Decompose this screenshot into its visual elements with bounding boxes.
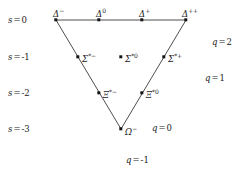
particle-superscript: 0 xyxy=(102,7,106,14)
charge-label-equals: = xyxy=(210,73,219,83)
particle-label: Ω− xyxy=(125,125,137,137)
particle-node xyxy=(119,127,122,130)
charge-label-value: 2 xyxy=(227,37,232,47)
strangeness-label-value: -1 xyxy=(22,52,30,62)
particle-node xyxy=(76,55,79,58)
particle-label: Σ*0 xyxy=(125,52,138,64)
triangle-edges xyxy=(0,0,250,175)
strangeness-label: s=-2 xyxy=(8,88,30,98)
particle-superscript: ++ xyxy=(188,7,198,14)
charge-label: q=-1 xyxy=(126,155,149,165)
strangeness-label-equals: = xyxy=(12,88,21,98)
particle-node xyxy=(97,91,100,94)
particle-label: Δ− xyxy=(53,7,64,19)
particle-label: Ξ*− xyxy=(103,88,117,100)
particle-superscript: *+ xyxy=(174,52,182,59)
particle-label: Δ++ xyxy=(182,7,198,19)
strangeness-label-equals: = xyxy=(12,15,21,25)
charge-label-equals: = xyxy=(131,155,140,165)
baryon-decuplet-figure: Δ−Δ0Δ+Δ++Σ*−Σ*0Σ*+Ξ*−Ξ*0Ω− s=0s=-1s=-2s=… xyxy=(0,0,250,175)
particle-superscript: + xyxy=(145,7,150,14)
charge-label-value: -1 xyxy=(141,155,149,165)
triangle-edge-right-edge xyxy=(121,20,186,129)
particle-superscript: *− xyxy=(88,52,96,59)
particle-label: Σ*− xyxy=(82,52,96,64)
strangeness-label: s=-3 xyxy=(8,124,30,134)
particle-superscript: *0 xyxy=(131,52,137,59)
strangeness-label-value: -2 xyxy=(22,88,30,98)
particle-label: Σ*+ xyxy=(168,52,182,64)
strangeness-label-value: -3 xyxy=(22,124,30,134)
particle-superscript: *0 xyxy=(152,88,158,95)
strangeness-label: s=-1 xyxy=(8,52,30,62)
charge-label-equals: = xyxy=(157,123,166,133)
charge-label-equals: = xyxy=(217,37,226,47)
strangeness-label-equals: = xyxy=(12,124,21,134)
particle-label: Δ+ xyxy=(139,7,150,19)
particle-superscript: − xyxy=(59,7,64,14)
triangle-edge-left-edge xyxy=(56,20,121,129)
particle-node xyxy=(162,55,165,58)
charge-label: q=2 xyxy=(212,37,232,47)
charge-label-value: 1 xyxy=(220,73,225,83)
particle-superscript: − xyxy=(132,125,137,132)
particle-label: Δ0 xyxy=(96,7,106,19)
charge-label: q=0 xyxy=(152,123,172,133)
particle-superscript: *− xyxy=(109,88,117,95)
strangeness-label-equals: = xyxy=(12,52,21,62)
particle-node xyxy=(140,91,143,94)
strangeness-label: s=0 xyxy=(8,15,27,25)
strangeness-label-value: 0 xyxy=(22,15,27,25)
charge-label: q=1 xyxy=(205,73,225,83)
particle-label: Ξ*0 xyxy=(146,88,159,100)
charge-label-value: 0 xyxy=(167,123,172,133)
particle-node xyxy=(119,55,122,58)
